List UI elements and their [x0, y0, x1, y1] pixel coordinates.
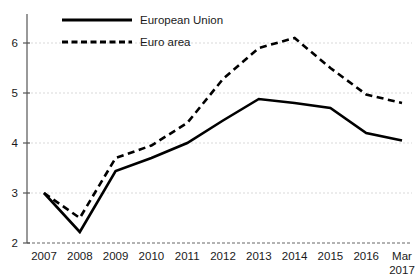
gridlines — [27, 43, 412, 243]
y-tick-label: 4 — [12, 137, 19, 149]
x-tick-label: 2011 — [175, 250, 200, 262]
chart-legend: European UnionEuro area — [62, 14, 223, 48]
x-tick-labels: 2007200820092010201120122013201420152016… — [31, 250, 415, 276]
x-tick-label-second-line: 2017 — [389, 264, 415, 276]
legend-label: European Union — [140, 14, 223, 26]
y-tick-label: 6 — [12, 37, 18, 49]
y-tick-label: 5 — [12, 87, 18, 99]
y-axis — [23, 14, 30, 243]
legend-label: Euro area — [140, 36, 191, 48]
chart-container: 23456 2007200820092010201120122013201420… — [0, 0, 420, 279]
x-tick-label: 2012 — [210, 250, 236, 262]
y-tick-labels: 23456 — [12, 37, 19, 249]
x-tick-label: Mar — [392, 250, 412, 262]
series-line-european-union — [44, 99, 402, 232]
x-tick-label: 2008 — [67, 250, 93, 262]
y-tick-label: 2 — [12, 237, 18, 249]
x-tick-label: 2014 — [282, 250, 308, 262]
x-tick-label: 2009 — [103, 250, 129, 262]
x-tick-label: 2015 — [318, 250, 344, 262]
y-tick-label: 3 — [12, 187, 18, 199]
x-tick-label: 2013 — [246, 250, 272, 262]
x-tick-label: 2016 — [353, 250, 379, 262]
series-line-euro-area — [44, 38, 402, 218]
data-series — [44, 38, 402, 232]
x-tick-label: 2010 — [139, 250, 165, 262]
x-tick-label: 2007 — [31, 250, 57, 262]
line-chart: 23456 2007200820092010201120122013201420… — [0, 0, 420, 279]
